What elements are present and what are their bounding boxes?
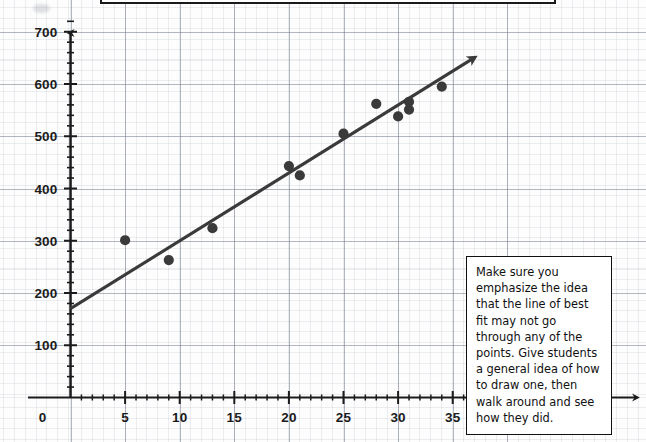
axis-ticks <box>64 21 496 404</box>
data-points <box>120 82 447 266</box>
x-axis-tick-label: 5 <box>121 410 129 425</box>
data-point <box>437 82 447 92</box>
y-axis-tick-label: 400 <box>34 181 57 196</box>
y-axis-tick-label: 300 <box>34 233 57 248</box>
x-axis-tick-label: 25 <box>336 410 351 425</box>
x-axis-tick-label: 35 <box>445 410 460 425</box>
line-of-best-fit <box>71 59 473 309</box>
data-point <box>338 129 348 139</box>
data-point <box>404 105 414 115</box>
data-point <box>393 111 403 121</box>
y-axis-tick-label: 200 <box>34 286 57 301</box>
x-axis-tick-label: 0 <box>39 410 47 425</box>
x-axis-tick-label: 15 <box>227 410 242 425</box>
data-point <box>295 170 305 180</box>
x-axis-tick-label: 20 <box>281 410 296 425</box>
data-point <box>164 255 174 265</box>
data-point <box>207 223 217 233</box>
x-axis-tick-label: 30 <box>390 410 405 425</box>
y-axis-tick-label: 600 <box>34 77 57 92</box>
data-point <box>120 235 130 245</box>
x-axis-tick-label: 10 <box>172 410 187 425</box>
y-axis-tick-label: 100 <box>34 338 57 353</box>
teacher-note-text: Make sure you emphasize the idea that th… <box>476 265 600 425</box>
teacher-note-box: Make sure you emphasize the idea that th… <box>466 256 612 435</box>
y-axis-tick-label: 500 <box>34 129 57 144</box>
worksheet-page: 100200300400500600700051015202530354 Mak… <box>0 0 646 442</box>
data-point <box>284 161 294 171</box>
data-point <box>371 99 381 109</box>
best-fit-line-segment <box>71 59 473 309</box>
y-axis-tick-label: 700 <box>34 24 57 39</box>
